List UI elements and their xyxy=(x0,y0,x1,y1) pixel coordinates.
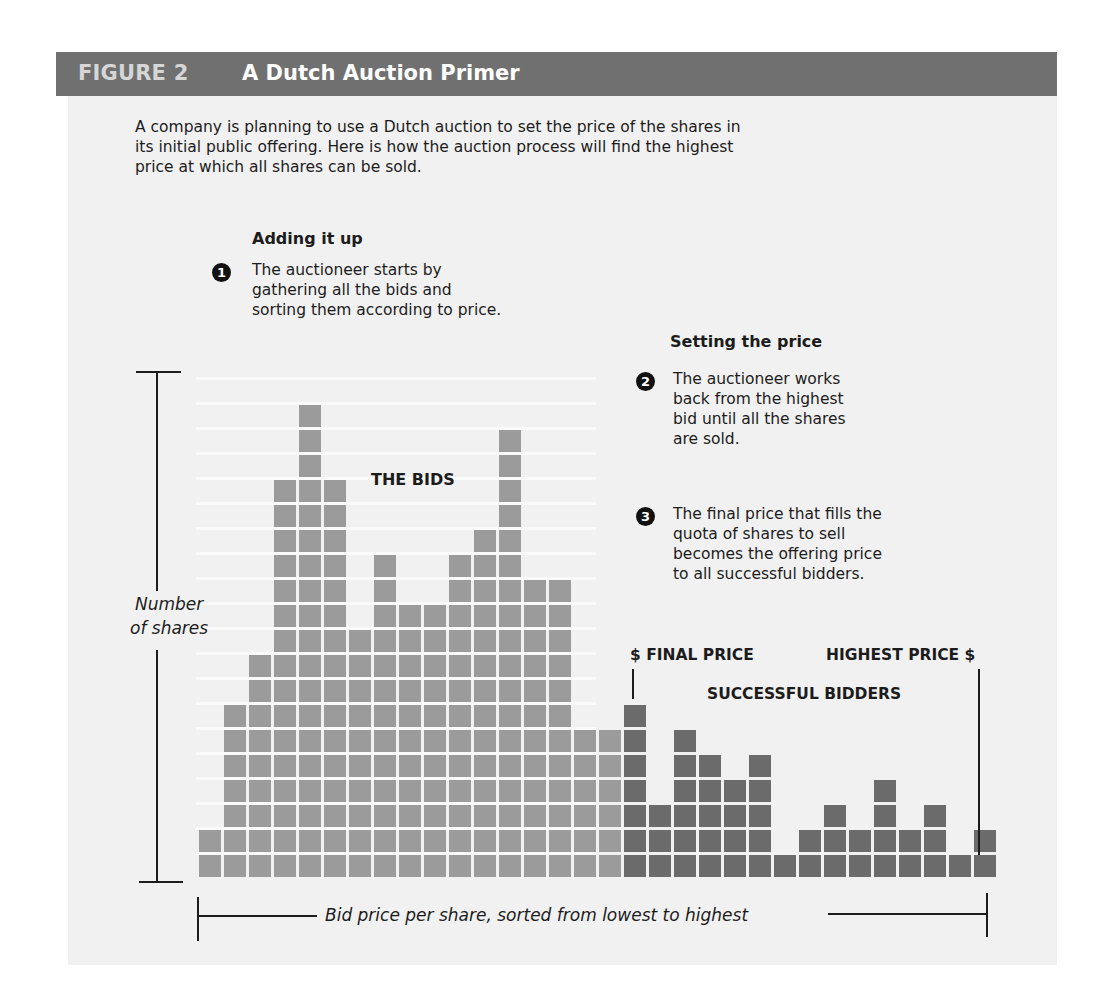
successful-bid-cell xyxy=(624,755,646,777)
bid-cell xyxy=(274,605,296,627)
bid-cell xyxy=(349,755,371,777)
bid-cell xyxy=(574,730,596,752)
x-axis-label: Bid price per share, sorted from lowest … xyxy=(325,905,748,925)
bid-cell xyxy=(324,480,346,502)
step-line: are sold. xyxy=(673,429,846,449)
bid-cell xyxy=(549,705,571,727)
the-bids-label: THE BIDS xyxy=(371,470,455,489)
successful-bid-cell xyxy=(749,755,771,777)
y-axis-line-lower xyxy=(156,650,158,882)
bid-cell xyxy=(524,630,546,652)
bid-cell xyxy=(324,605,346,627)
bid-cell xyxy=(274,730,296,752)
bid-cell xyxy=(474,780,496,802)
bid-cell xyxy=(549,655,571,677)
bid-cell xyxy=(499,455,521,477)
bid-cell xyxy=(399,680,421,702)
bid-cell xyxy=(224,755,246,777)
bid-cell xyxy=(199,830,221,852)
bid-cell xyxy=(249,780,271,802)
bid-cell xyxy=(324,805,346,827)
step-line: to all successful bidders. xyxy=(673,564,882,584)
bid-cell xyxy=(299,705,321,727)
bid-cell xyxy=(299,805,321,827)
successful-bid-cell xyxy=(874,780,896,802)
bid-cell xyxy=(524,655,546,677)
bid-cell xyxy=(274,655,296,677)
bid-cell xyxy=(474,830,496,852)
bid-cell xyxy=(499,705,521,727)
bid-cell xyxy=(424,605,446,627)
bid-cell xyxy=(524,705,546,727)
bid-cell xyxy=(449,655,471,677)
bid-cell xyxy=(549,580,571,602)
bid-cell xyxy=(474,580,496,602)
highest-price-marker-line xyxy=(978,669,980,855)
bid-cell xyxy=(449,780,471,802)
bid-cell xyxy=(499,655,521,677)
successful-bid-cell xyxy=(824,855,846,877)
successful-bid-cell xyxy=(774,855,796,877)
successful-bid-cell xyxy=(674,855,696,877)
bid-cell xyxy=(549,605,571,627)
bid-cell xyxy=(299,755,321,777)
bid-cell xyxy=(374,805,396,827)
bid-cell xyxy=(474,855,496,877)
successful-bid-cell xyxy=(699,780,721,802)
bid-cell xyxy=(599,755,621,777)
successful-bid-cell xyxy=(724,830,746,852)
intro-text: A company is planning to use a Dutch auc… xyxy=(135,117,775,177)
bid-cell xyxy=(574,805,596,827)
successful-bid-cell xyxy=(624,855,646,877)
bid-cell xyxy=(374,630,396,652)
successful-bid-cell xyxy=(624,705,646,727)
bid-cell xyxy=(374,780,396,802)
bid-cell xyxy=(299,830,321,852)
bid-cell xyxy=(349,680,371,702)
final-price-marker-line xyxy=(632,669,634,699)
successful-bid-cell xyxy=(874,805,896,827)
bid-cell xyxy=(224,805,246,827)
bid-cell xyxy=(399,855,421,877)
bid-cell xyxy=(499,630,521,652)
step-3-badge-icon: 3 xyxy=(636,507,655,526)
bid-cell xyxy=(299,655,321,677)
bid-cell xyxy=(249,680,271,702)
bid-cell xyxy=(449,855,471,877)
bid-cell xyxy=(299,555,321,577)
bid-cell xyxy=(274,755,296,777)
x-axis-line-left xyxy=(197,915,317,917)
final-price-label: $ FINAL PRICE xyxy=(630,646,754,664)
successful-bid-cell xyxy=(824,805,846,827)
bid-cell xyxy=(399,755,421,777)
bid-cell xyxy=(274,830,296,852)
bid-cell xyxy=(524,755,546,777)
bid-cell xyxy=(449,730,471,752)
bid-cell xyxy=(349,855,371,877)
bid-cell xyxy=(449,555,471,577)
successful-bid-cell xyxy=(699,805,721,827)
step-line: The auctioneer starts by xyxy=(252,260,501,280)
bid-cell xyxy=(274,780,296,802)
intro-line: A company is planning to use a Dutch auc… xyxy=(135,117,775,137)
bid-cell xyxy=(274,855,296,877)
bid-cell xyxy=(399,805,421,827)
bid-cell xyxy=(549,730,571,752)
bid-cell xyxy=(424,855,446,877)
bid-cell xyxy=(474,755,496,777)
bid-cell xyxy=(324,530,346,552)
bid-cell xyxy=(324,505,346,527)
bid-cell xyxy=(299,455,321,477)
successful-bid-cell xyxy=(674,730,696,752)
bid-cell xyxy=(599,830,621,852)
bid-cell xyxy=(199,855,221,877)
bid-cell xyxy=(399,655,421,677)
bid-cell xyxy=(374,580,396,602)
bid-cell xyxy=(299,480,321,502)
step-line: The auctioneer works xyxy=(673,369,846,389)
bid-cell xyxy=(349,730,371,752)
successful-bid-cell xyxy=(724,855,746,877)
figure-header: FIGURE 2 A Dutch Auction Primer xyxy=(56,52,1057,96)
successful-bid-cell xyxy=(899,830,921,852)
x-axis-right-cap xyxy=(986,893,988,937)
